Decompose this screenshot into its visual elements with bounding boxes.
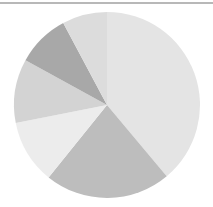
pie-chart — [0, 0, 213, 207]
